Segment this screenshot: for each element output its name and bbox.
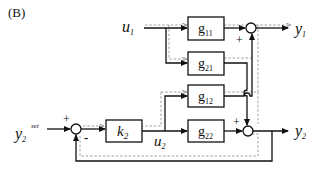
sum2-plus-sign: +: [233, 115, 240, 129]
block-g11: g11: [188, 17, 224, 40]
block-diagram: (B): [0, 0, 323, 172]
y2set-superscript: set: [31, 122, 40, 130]
signal-u2-label: u2: [154, 133, 166, 151]
output-y2-label: y2: [293, 122, 306, 141]
summing-junction-0: [71, 124, 81, 134]
sum0-minus-sign: -: [84, 130, 88, 145]
block-g22: g22: [188, 120, 224, 142]
block-g12: g12: [188, 85, 224, 107]
block-g21: g21: [188, 52, 224, 75]
panel-label: (B): [8, 5, 25, 20]
input-u1-label: u1: [122, 18, 134, 37]
sum1-plus-sign: +: [236, 33, 243, 47]
summing-junction-1: [246, 23, 256, 33]
sum0-plus-sign: +: [63, 112, 70, 126]
input-y2set-label: y2: [13, 125, 26, 144]
output-y1-label: y1: [293, 20, 306, 39]
summing-junction-2: [243, 126, 253, 136]
block-k2: k2: [106, 120, 142, 142]
